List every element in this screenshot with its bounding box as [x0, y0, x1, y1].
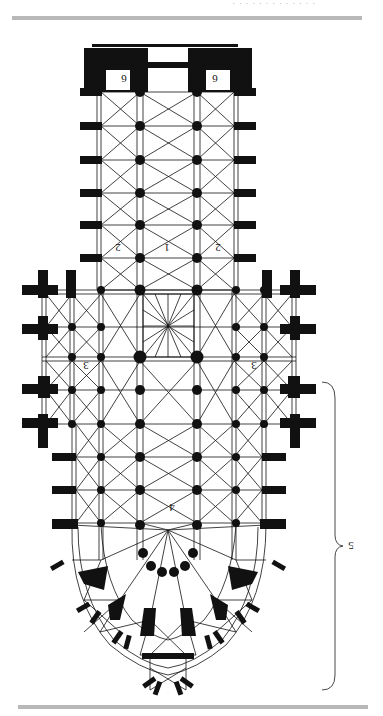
vault-lines — [42, 92, 296, 690]
label-chevet: 5 — [348, 540, 354, 552]
label-aisle-left: 2 — [115, 242, 121, 254]
label-tower-left: 6 — [121, 73, 127, 85]
plan-labels: 6 6 1 2 2 3 3 4 5 — [83, 73, 354, 552]
label-nave: 1 — [164, 242, 170, 254]
masonry — [22, 44, 316, 696]
chevet-bracket — [322, 382, 343, 690]
label-choir: 4 — [169, 502, 175, 514]
floor-plan: 6 6 1 2 2 3 3 4 5 — [0, 0, 383, 716]
label-transept-right: 3 — [251, 360, 257, 372]
label-transept-left: 3 — [83, 360, 89, 372]
label-tower-right: 6 — [212, 73, 218, 85]
label-aisle-right: 2 — [215, 242, 221, 254]
document-page: · · · · · · · · · · · · · — [0, 0, 383, 716]
